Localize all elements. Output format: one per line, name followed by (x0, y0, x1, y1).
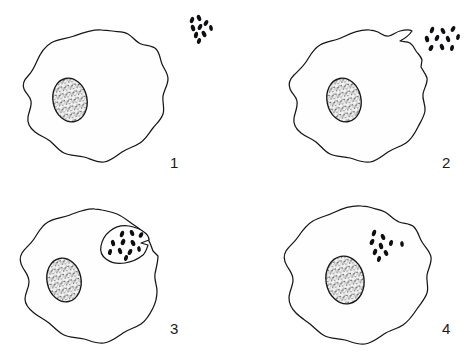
bacterium (428, 44, 434, 52)
bacteria-cluster-outside (189, 14, 213, 44)
bacterium (201, 30, 208, 38)
bacterium (190, 24, 196, 31)
panel-number-2: 2 (442, 154, 450, 171)
bacterium (434, 34, 440, 41)
bacterium (189, 16, 195, 23)
phagocytosis-figure: 1 2 (0, 0, 472, 360)
bacterium (445, 35, 451, 42)
panel-1: 1 (23, 14, 213, 171)
bacterium (424, 35, 429, 42)
bacterium (456, 34, 461, 41)
panel-number-4: 4 (442, 320, 450, 337)
bacterium (450, 25, 456, 32)
bacteria-cluster-at-membrane (424, 25, 460, 51)
bacterium (209, 25, 213, 31)
cell-membrane-outline-1 (23, 30, 168, 162)
panel-number-3: 3 (170, 320, 178, 337)
bacterium (439, 43, 445, 51)
panel-3: 3 (20, 209, 178, 343)
bacterium (193, 31, 198, 38)
panel-2: 2 (289, 25, 460, 171)
bacterium (429, 26, 435, 34)
bacterium (196, 14, 202, 22)
panel-4: 4 (284, 206, 450, 344)
bacterium (440, 27, 446, 34)
panel-number-1: 1 (170, 154, 178, 171)
bacterium (450, 45, 455, 52)
bacterium (196, 38, 202, 45)
bacterium (203, 19, 209, 26)
bacterium (197, 23, 203, 30)
